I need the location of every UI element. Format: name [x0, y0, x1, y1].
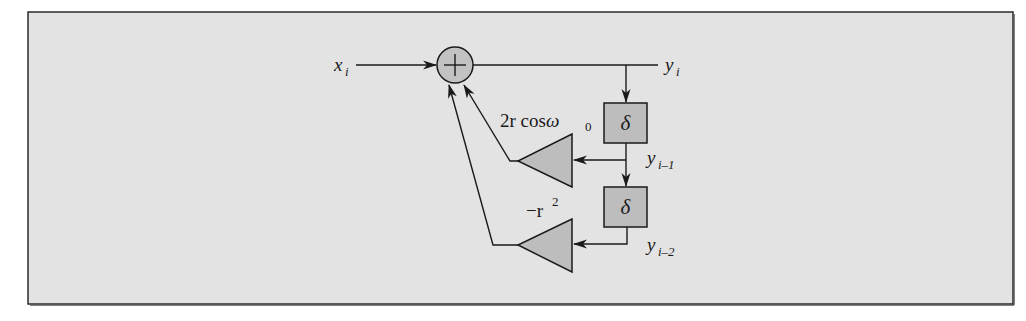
svg-text:i: i [676, 64, 680, 79]
svg-text:i: i [345, 64, 349, 79]
svg-text:y: y [663, 54, 674, 75]
resonator-filter-diagram: x i y i δ y i–1 δ y i–2 2r c [0, 0, 1026, 321]
svg-text:0: 0 [585, 119, 592, 134]
summing-junction [437, 47, 473, 83]
delay-block-2: δ [604, 187, 647, 227]
svg-text:2: 2 [552, 194, 559, 209]
diagram-panel [28, 12, 1013, 304]
svg-text:δ: δ [621, 111, 632, 135]
svg-text:y: y [645, 147, 656, 168]
delay-block-1: δ [604, 103, 647, 143]
svg-text:y: y [645, 234, 656, 255]
svg-text:2r cosω: 2r cosω [500, 110, 559, 131]
svg-text:i–1: i–1 [658, 157, 675, 172]
svg-text:i–2: i–2 [658, 244, 675, 259]
svg-text:δ: δ [621, 195, 632, 219]
svg-text:−r: −r [526, 200, 544, 221]
svg-text:x: x [333, 54, 343, 75]
